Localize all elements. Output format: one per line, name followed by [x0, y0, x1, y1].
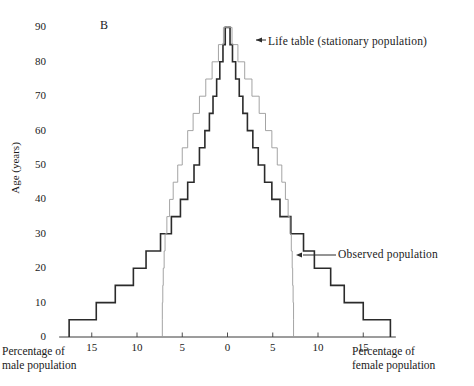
- annotation-arrowhead: [256, 37, 262, 42]
- y-tick-label: 20: [18, 261, 46, 273]
- male-axis-caption: Percentage of male population: [2, 344, 76, 372]
- series-layer: [69, 27, 390, 337]
- pyramid-plot: [0, 0, 474, 386]
- y-tick-label: 10: [18, 296, 46, 308]
- female-axis-caption: Percentage of female population: [352, 344, 435, 372]
- y-tick-label: 90: [18, 20, 46, 32]
- panel-label: B: [100, 18, 108, 33]
- male-caption-line-2: male population: [2, 358, 76, 372]
- observed-annotation-label: Observed population: [338, 248, 438, 260]
- y-tick-label: 60: [18, 124, 46, 136]
- life-table-annotation-label: Life table (stationary population): [268, 35, 427, 47]
- x-tick-label: 10: [304, 341, 332, 353]
- y-tick-label: 80: [18, 55, 46, 67]
- male-caption-line-1: Percentage of: [2, 344, 76, 358]
- y-tick-label: 40: [18, 192, 46, 204]
- female-caption-line-1: Percentage of: [352, 344, 435, 358]
- population-pyramid-figure: B Age (years) 0102030405060708090 151050…: [0, 0, 474, 386]
- y-tick-label: 70: [18, 89, 46, 101]
- annotation-leaders: [256, 37, 336, 257]
- female-caption-line-2: female population: [352, 358, 435, 372]
- y-tick-label: 30: [18, 227, 46, 239]
- annotation-arrowhead: [296, 252, 302, 257]
- x-tick-label: 0: [214, 341, 242, 353]
- x-tick-label: 15: [78, 341, 106, 353]
- observed-female-outline: [228, 27, 391, 337]
- x-tick-label: 10: [123, 341, 151, 353]
- observed-male-outline: [69, 27, 227, 337]
- y-tick-label: 50: [18, 158, 46, 170]
- life-table-male-outline: [162, 27, 227, 337]
- x-tick-label: 5: [168, 341, 196, 353]
- life-table-female-outline: [228, 27, 294, 337]
- x-tick-label: 5: [259, 341, 287, 353]
- axis-layer: [59, 333, 396, 338]
- y-tick-label: 0: [18, 330, 46, 342]
